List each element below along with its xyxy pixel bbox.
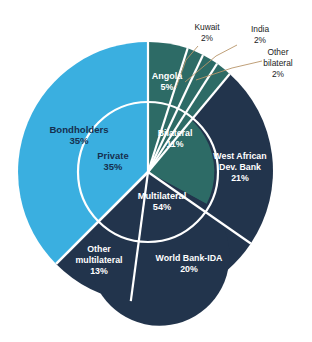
callout-india-value: 2% (254, 35, 267, 45)
label-wadb-value: 21% (231, 173, 249, 183)
label-angola-name: Angola (152, 71, 183, 81)
label-world-bank-ida-name: World Bank-IDA (156, 253, 223, 263)
label-bilateral-value: 11% (166, 139, 183, 149)
callout-india-name: India (251, 24, 270, 34)
label-angola-value: 5% (160, 82, 173, 92)
callout-kuwait-value: 2% (201, 33, 214, 43)
label-private-name: Private (97, 150, 128, 161)
nested-pie-chart: Bondholders 35% Private 35% Bilateral 11… (0, 0, 312, 342)
label-bilateral-name: Bilateral (158, 128, 193, 138)
callout-other-bilateral-value: 2% (272, 69, 285, 79)
label-wadb-line2: Dev. Bank (219, 162, 261, 172)
pie-chart-container: Bondholders 35% Private 35% Bilateral 11… (0, 0, 312, 342)
label-world-bank-ida-value: 20% (180, 264, 198, 274)
label-bondholders-name: Bondholders (49, 124, 108, 135)
callout-other-bilateral-line1: Other (268, 47, 289, 57)
label-other-multilateral-line1: Other (87, 244, 111, 254)
label-bondholders-value: 35% (69, 135, 89, 146)
label-multilateral-name: Multilateral (138, 191, 187, 201)
label-other-multilateral-line2: multilateral (76, 255, 123, 265)
callout-kuwait-name: Kuwait (194, 22, 220, 32)
callout-other-bilateral-line2: bilateral (263, 58, 292, 68)
label-private-value: 35% (104, 161, 123, 172)
label-wadb-line1: West African (213, 151, 266, 161)
label-other-multilateral-value: 13% (90, 266, 108, 276)
label-multilateral-value: 54% (153, 202, 171, 212)
